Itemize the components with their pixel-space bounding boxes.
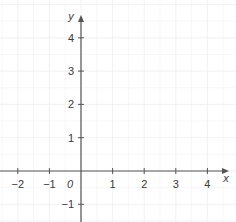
x-axis-label: x [222, 172, 229, 184]
coordinate-grid: −2−11234−112340xy [0, 0, 236, 222]
y-tick-label: 2 [68, 98, 74, 110]
y-axis-arrow-icon [78, 15, 84, 22]
y-tick-label: 1 [68, 132, 74, 144]
x-tick-label: −2 [12, 178, 25, 190]
x-tick-label: 2 [141, 178, 147, 190]
y-tick-label: 4 [68, 32, 74, 44]
y-tick-label: −1 [61, 198, 74, 210]
y-axis-label: y [67, 10, 75, 22]
x-tick-label: 1 [110, 178, 116, 190]
x-tick-label: −1 [43, 178, 56, 190]
x-tick-label: 3 [173, 178, 179, 190]
y-tick-label: 3 [68, 65, 74, 77]
x-tick-label: 4 [204, 178, 210, 190]
origin-label: 0 [67, 178, 74, 190]
